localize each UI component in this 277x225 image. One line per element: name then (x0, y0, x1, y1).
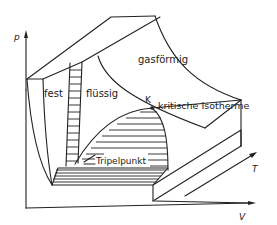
t-axis-label: T (252, 164, 259, 174)
region-label-gas: gasförmig (138, 54, 188, 65)
v-axis (26, 201, 256, 208)
critical-isotherm-label: kritische Isotherme (158, 100, 250, 111)
pvt-surface-diagram: p V T (0, 0, 277, 225)
solid-vapor-region (52, 168, 168, 185)
v-axis-label: V (239, 212, 246, 222)
region-label-liquid: flüssig (86, 88, 118, 99)
p-axis-label: p (13, 32, 20, 42)
triple-point-label: Tripelpunkt (95, 156, 146, 166)
solid-liquid-coexistence (66, 62, 82, 166)
v-axis-arrow-icon (248, 201, 256, 205)
critical-point-label: K (145, 95, 152, 105)
region-label-solid: fest (44, 88, 63, 99)
critical-point-marker (150, 106, 154, 110)
p-axis (24, 30, 28, 208)
t-axis-arrow-icon (249, 152, 257, 158)
p-axis-arrow-icon (24, 30, 28, 38)
